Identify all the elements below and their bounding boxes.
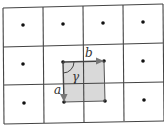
- label-a: a: [54, 83, 61, 97]
- grid-lines: [3, 4, 164, 124]
- label-b: b: [85, 46, 93, 60]
- lattice-diagram: b a γ: [0, 0, 164, 127]
- label-gamma: γ: [72, 70, 80, 84]
